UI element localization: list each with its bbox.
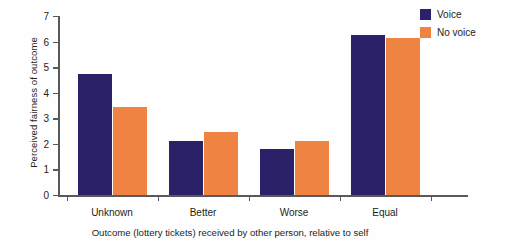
legend-item: Voice	[420, 9, 476, 20]
x-axis-tick	[431, 195, 432, 201]
x-axis-tick	[67, 195, 68, 201]
y-axis-tick: 2	[53, 144, 58, 145]
y-axis-tick: 3	[53, 118, 58, 119]
x-axis-tick-label: Better	[190, 207, 217, 218]
y-axis-tick: 1	[53, 169, 58, 170]
y-axis-tick: 6	[53, 42, 58, 43]
x-axis-tick-label: Worse	[280, 207, 309, 218]
legend: Voice No voice	[420, 9, 476, 45]
plot-area: 01234567 UnknownBetterWorseEqual	[58, 16, 468, 195]
x-axis-tick	[340, 195, 341, 201]
y-axis-tick: 4	[53, 93, 58, 94]
bar-unknown-no-voice	[113, 107, 147, 195]
y-axis-tick-label: 7	[43, 11, 49, 22]
y-axis-line	[58, 16, 60, 195]
x-axis-tick	[158, 195, 159, 201]
legend-swatch-no-voice	[420, 27, 431, 38]
legend-item: No voice	[420, 27, 476, 38]
y-axis-tick-label: 4	[43, 87, 49, 98]
x-axis-tick-label: Unknown	[91, 207, 133, 218]
y-axis-tick: 5	[53, 67, 58, 68]
y-axis-tick-label: 2	[43, 138, 49, 149]
y-axis-title: Perceived fairness of outcome	[28, 8, 39, 198]
legend-label-no-voice: No voice	[437, 27, 476, 38]
legend-label-voice: Voice	[437, 9, 461, 20]
bar-worse-voice	[260, 149, 294, 195]
y-axis-tick: 0	[53, 195, 58, 196]
legend-swatch-voice	[420, 9, 431, 20]
bar-equal-voice	[351, 35, 385, 195]
x-axis-line	[58, 195, 468, 197]
bar-better-voice	[169, 141, 203, 195]
bar-chart-figure: Perceived fairness of outcome 01234567 U…	[0, 0, 511, 247]
bar-better-no-voice	[204, 132, 238, 195]
bar-equal-no-voice	[386, 38, 420, 195]
bar-unknown-voice	[78, 74, 112, 195]
y-axis-tick-label: 1	[43, 164, 49, 175]
y-axis-tick-label: 6	[43, 36, 49, 47]
x-axis-tick	[249, 195, 250, 201]
y-axis-tick-label: 0	[43, 190, 49, 201]
x-axis-tick-label: Equal	[372, 207, 398, 218]
x-axis-title: Outcome (lottery tickets) received by ot…	[0, 227, 460, 238]
bar-worse-no-voice	[295, 141, 329, 195]
y-axis-tick-label: 3	[43, 113, 49, 124]
y-axis-tick-label: 5	[43, 62, 49, 73]
y-axis-tick: 7	[53, 16, 58, 17]
